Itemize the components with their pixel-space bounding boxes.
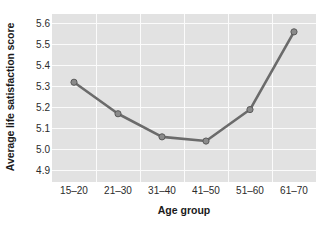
- y-tick-label: 5.6: [22, 18, 50, 29]
- data-point-marker: [71, 79, 77, 85]
- data-point-marker: [203, 138, 209, 144]
- y-tick-label: 4.9: [22, 165, 50, 176]
- y-tick-label: 5.5: [22, 39, 50, 50]
- y-tick-label: 5.4: [22, 60, 50, 71]
- y-tick-label: 5.3: [22, 81, 50, 92]
- y-tick-label: 5.0: [22, 144, 50, 155]
- series-line: [74, 32, 294, 141]
- data-point-marker: [159, 134, 165, 140]
- x-axis-title: Age group: [52, 204, 316, 216]
- plot-panel: [52, 14, 316, 182]
- x-tick-label: 61–70: [266, 185, 322, 196]
- data-point-marker: [247, 106, 253, 112]
- y-axis-tick-labels: 4.95.05.15.25.35.45.55.6: [22, 14, 50, 182]
- x-axis-tick-labels: 15–2021–3031–4041–5051–6061–70: [52, 185, 316, 199]
- data-point-marker: [291, 29, 297, 35]
- data-series-layer: [52, 14, 316, 182]
- y-tick-label: 5.2: [22, 102, 50, 113]
- y-axis-title: Average life satisfaction score: [1, 4, 19, 190]
- data-point-marker: [115, 111, 121, 117]
- line-chart: Average life satisfaction score 4.95.05.…: [0, 0, 326, 229]
- y-tick-label: 5.1: [22, 123, 50, 134]
